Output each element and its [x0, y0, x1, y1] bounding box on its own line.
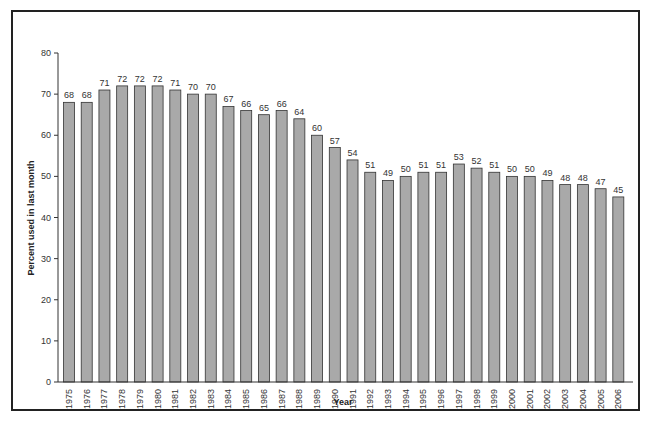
value-label: 72	[135, 74, 145, 84]
value-label: 47	[596, 177, 606, 187]
value-label: 72	[153, 74, 163, 84]
x-tick-label: 2006	[613, 389, 623, 409]
x-tick-label: 2005	[596, 389, 606, 409]
x-tick-label: 2001	[525, 389, 535, 409]
bar-2002	[542, 180, 553, 382]
x-tick-label: 1983	[206, 389, 216, 409]
x-tick-label: 1977	[99, 389, 109, 409]
value-label: 71	[170, 78, 180, 88]
y-axis-title: Percent used in last month	[26, 160, 36, 275]
bar-chart: 01020304050607080 6868717272727170706766…	[0, 0, 650, 446]
bar-1985	[241, 111, 252, 382]
bar-1983	[205, 94, 216, 382]
value-label: 65	[259, 103, 269, 113]
value-label: 71	[99, 78, 109, 88]
value-label: 50	[525, 164, 535, 174]
x-tick-label: 1987	[277, 389, 287, 409]
bar-1989	[312, 135, 323, 382]
bar-1981	[170, 90, 181, 382]
x-tick-label: 1995	[418, 389, 428, 409]
value-label: 50	[507, 164, 517, 174]
bar-1977	[99, 90, 110, 382]
value-label: 48	[578, 173, 588, 183]
x-axis-title: Year	[333, 397, 353, 407]
x-tick-label: 1984	[223, 389, 233, 409]
value-label: 60	[312, 123, 322, 133]
bar-1987	[276, 111, 287, 382]
y-tick-label: 50	[41, 171, 51, 181]
bar-1984	[223, 106, 234, 382]
x-tick-label: 1982	[188, 389, 198, 409]
x-tick-label: 1975	[64, 389, 74, 409]
y-tick-label: 60	[41, 130, 51, 140]
bar-1982	[188, 94, 199, 382]
x-tick-label: 1976	[82, 389, 92, 409]
x-tick-label: 1996	[436, 389, 446, 409]
y-tick-label: 40	[41, 213, 51, 223]
y-tick-label: 0	[46, 377, 51, 387]
value-label: 53	[454, 152, 464, 162]
x-tick-label: 2003	[560, 389, 570, 409]
x-tick-label: 1978	[117, 389, 127, 409]
bar-1996	[436, 172, 447, 382]
x-tick-label: 1980	[153, 389, 163, 409]
bar-2000	[507, 176, 518, 382]
x-tick-label: 2000	[507, 389, 517, 409]
value-label: 68	[82, 90, 92, 100]
value-label: 50	[401, 164, 411, 174]
y-tick-label: 80	[41, 48, 51, 58]
bar-1994	[400, 176, 411, 382]
x-tick-label: 1998	[472, 389, 482, 409]
bar-2004	[577, 185, 588, 382]
bar-1979	[134, 86, 145, 382]
x-tick-label: 1994	[401, 389, 411, 409]
bar-1976	[81, 102, 92, 382]
x-tick-label: 2004	[578, 389, 588, 409]
bar-1998	[471, 168, 482, 382]
value-label: 52	[472, 156, 482, 166]
value-label: 54	[348, 148, 358, 158]
x-tick-label: 2002	[542, 389, 552, 409]
x-tick-label: 1985	[241, 389, 251, 409]
bar-1990	[329, 148, 340, 382]
y-tick-label: 10	[41, 336, 51, 346]
value-label: 70	[188, 82, 198, 92]
value-label: 70	[206, 82, 216, 92]
bar-1995	[418, 172, 429, 382]
x-tick-label: 1999	[489, 389, 499, 409]
x-tick-label: 1986	[259, 389, 269, 409]
x-tick-label: 1981	[170, 389, 180, 409]
value-label: 51	[418, 160, 428, 170]
value-label: 66	[241, 99, 251, 109]
bars: 6868717272727170706766656664605754514950…	[64, 74, 624, 382]
y-tick-label: 70	[41, 89, 51, 99]
bar-1991	[347, 160, 358, 382]
value-label: 45	[613, 185, 623, 195]
bar-1988	[294, 119, 305, 382]
value-label: 51	[365, 160, 375, 170]
bar-2003	[560, 185, 571, 382]
x-tick-label: 1989	[312, 389, 322, 409]
value-label: 49	[383, 168, 393, 178]
x-tick-label: 1992	[365, 389, 375, 409]
x-tick-label: 1993	[383, 389, 393, 409]
y-axis: 01020304050607080	[41, 48, 58, 387]
x-tick-label: 1979	[135, 389, 145, 409]
bar-1993	[382, 180, 393, 382]
y-tick-label: 20	[41, 295, 51, 305]
value-label: 51	[436, 160, 446, 170]
bar-1980	[152, 86, 163, 382]
value-label: 72	[117, 74, 127, 84]
bar-1978	[117, 86, 128, 382]
value-label: 57	[330, 136, 340, 146]
bar-2006	[613, 197, 624, 382]
x-tick-label: 1997	[454, 389, 464, 409]
value-label: 64	[294, 107, 304, 117]
value-label: 48	[560, 173, 570, 183]
bar-1992	[365, 172, 376, 382]
bar-1997	[453, 164, 464, 382]
value-label: 67	[223, 94, 233, 104]
bar-1986	[258, 115, 269, 382]
bar-2005	[595, 189, 606, 382]
value-label: 66	[277, 99, 287, 109]
